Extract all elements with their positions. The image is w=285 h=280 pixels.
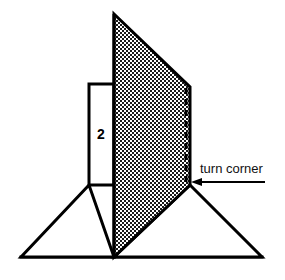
- geometry-diagram: 2 turn corner: [0, 0, 285, 280]
- callout-arrow-head: [191, 178, 202, 186]
- turn-corner-label: turn corner: [200, 161, 264, 176]
- left-triangle: [21, 185, 114, 257]
- figure-canvas: 2 turn corner: [0, 0, 285, 280]
- dimension-label: 2: [97, 126, 105, 142]
